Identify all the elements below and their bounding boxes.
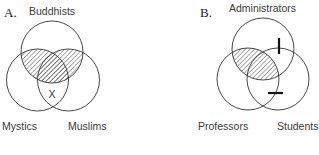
label-administrators: Administrators [229, 2, 296, 14]
label-buddhists: Buddhists [29, 5, 75, 17]
label-professors: Professors [198, 120, 248, 132]
label-muslims: Muslims [68, 120, 107, 132]
diagram-a: A. Buddhists Mystics Muslims X [2, 5, 107, 132]
label-students: Students [277, 120, 318, 132]
diagram-b: B. Administrators Professors Students [198, 2, 318, 132]
venn-diagrams-canvas: A. Buddhists Mystics Muslims X B. Admini… [0, 0, 319, 155]
label-mystics: Mystics [2, 120, 37, 132]
diagram-b-letter: B. [200, 5, 212, 20]
x-mark: X [49, 88, 56, 100]
diagram-a-shaded-region [7, 49, 100, 111]
diagram-a-letter: A. [4, 5, 17, 20]
